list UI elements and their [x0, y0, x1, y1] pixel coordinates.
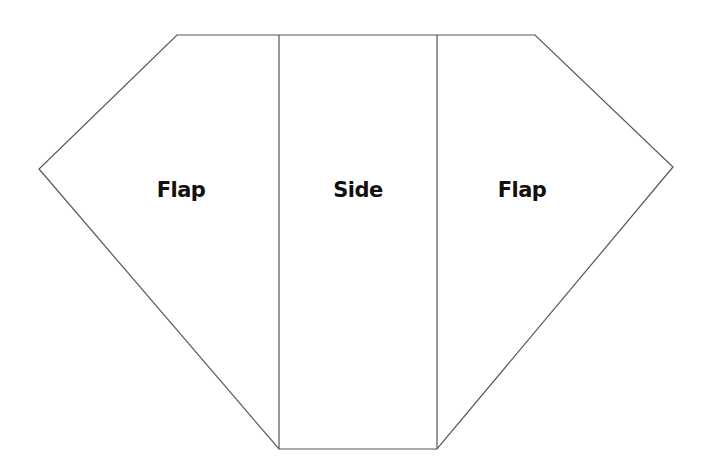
side-label: Side [333, 178, 383, 202]
net-diagram: Flap Side Flap [0, 0, 709, 471]
outline [39, 35, 673, 449]
left-flap-label: Flap [157, 178, 206, 202]
right-flap-label: Flap [498, 178, 547, 202]
